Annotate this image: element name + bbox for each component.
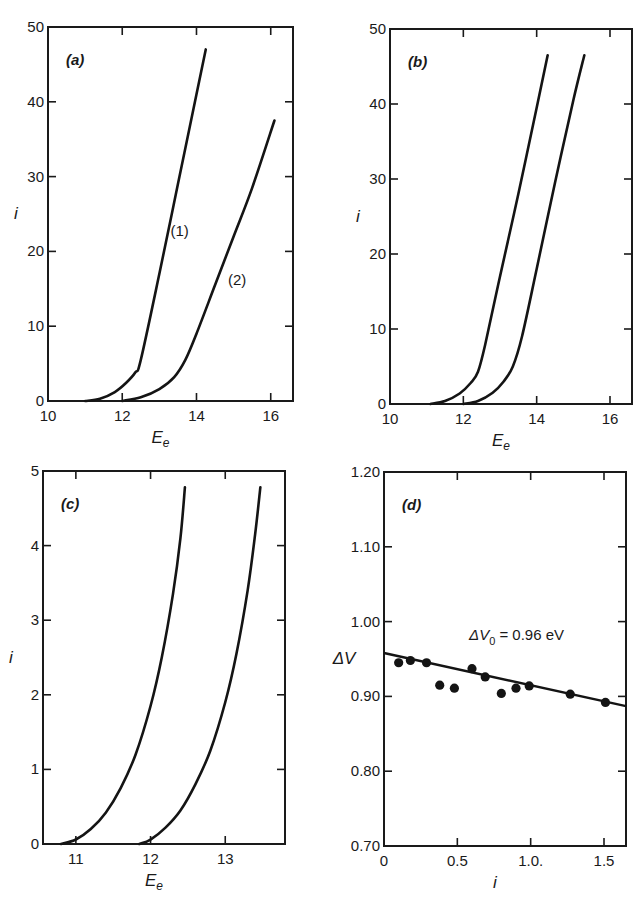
data-point [394,658,403,667]
x-tick-label: 10 [40,407,57,424]
y-tick-label: 1.10 [351,538,380,555]
y-tick-label: 20 [369,245,386,262]
plot-frame [43,471,285,844]
y-tick-label: 20 [27,242,44,259]
series-curve-2 [122,121,274,402]
annotation-label: ΔV0 = 0.96 eV [468,626,564,647]
x-axis-label: Ee [492,431,510,453]
y-axis-label: i [356,207,361,226]
data-point [497,689,506,698]
y-tick-label: 50 [27,18,44,35]
x-axis-label: i [493,873,498,892]
y-tick-label: 40 [369,95,386,112]
x-tick-label: 1.5 [594,852,615,869]
annotation-label: (1) [171,222,189,239]
x-tick-label: 12 [455,410,472,427]
y-tick-label: 2 [31,686,39,703]
y-tick-label: 0 [36,392,44,409]
x-tick-label: 10 [382,410,399,427]
data-point [511,684,520,693]
x-tick-label: 0.5 [447,852,468,869]
x-tick-label: 14 [528,410,545,427]
y-tick-label: 0 [378,395,386,412]
x-tick-label: 1.0. [518,852,543,869]
series-curve-1 [61,487,185,844]
plot-frame [384,472,626,846]
panel-c-chart: 111213012345Eei(c) [9,462,285,893]
x-tick-label: 14 [188,407,205,424]
fit-line [384,653,626,706]
panel-label: (d) [402,496,421,513]
y-tick-label: 10 [369,320,386,337]
y-tick-label: 4 [31,537,39,554]
figure-container: 1012141601020304050Eei(a)(1)(2) 10121416… [0,0,639,899]
y-tick-label: 5 [31,462,39,479]
panel-d-chart: 00.51.0.1.50.700.800.901.001.101.20iΔV(d… [332,463,626,892]
plot-frame [390,29,632,404]
y-tick-label: 0 [31,835,39,852]
x-tick-label: 12 [114,407,131,424]
panel-label: (b) [408,53,427,70]
y-tick-label: 30 [27,168,44,185]
data-point [435,681,444,690]
y-tick-label: 1.00 [351,613,380,630]
y-tick-label: 1 [31,760,39,777]
x-axis-label: Ee [151,428,169,450]
panel-a-chart: 1012141601020304050Eei(a)(1)(2) [14,18,293,450]
y-tick-label: 1.20 [351,463,380,480]
series-curve-2 [139,487,260,844]
panel-label: (c) [61,495,79,512]
y-tick-label: 10 [27,317,44,334]
y-axis-label: ΔV [332,649,357,668]
y-tick-label: 0.70 [351,837,380,854]
panel-label: (a) [66,51,84,68]
x-tick-label: 16 [602,410,619,427]
figure-svg: 1012141601020304050Eei(a)(1)(2) 10121416… [0,0,639,899]
series-curve-1 [430,55,547,404]
panel-b-chart: 1012141601020304050Eei(b) [356,20,632,453]
x-tick-label: 11 [68,850,84,867]
y-tick-label: 40 [27,93,44,110]
y-tick-label: 0.90 [351,687,380,704]
x-tick-label: 13 [217,850,234,867]
y-axis-label: i [14,204,19,223]
y-tick-label: 30 [369,170,386,187]
x-tick-label: 12 [142,850,159,867]
x-axis-label: Ee [145,871,163,893]
data-point [450,684,459,693]
y-tick-label: 50 [369,20,386,37]
y-tick-label: 0.80 [351,762,380,779]
y-axis-label: i [9,648,14,667]
x-tick-label: 16 [262,407,279,424]
series-curve-2 [463,55,584,404]
y-tick-label: 3 [31,611,39,628]
annotation-label: (2) [228,271,246,288]
x-tick-label: 0 [380,852,388,869]
